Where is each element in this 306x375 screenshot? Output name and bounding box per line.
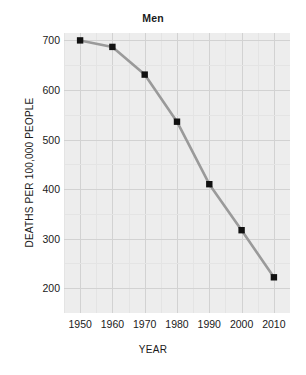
data-series-layer [64,33,290,313]
data-point-1980 [174,119,180,125]
x-axis-title: YEAR [0,344,306,355]
y-axis-title: DEATHS PER 100,000 PEOPLE [24,58,35,288]
y-tick-label-700: 700 [24,34,60,46]
x-tick-label-2010: 2010 [254,318,294,330]
data-point-2000 [238,227,244,233]
series-line-men [80,40,274,277]
data-point-1990 [206,181,212,187]
data-point-1970 [142,71,148,77]
chart-title: Men [0,12,306,24]
data-point-1960 [109,44,115,50]
data-point-1950 [77,37,83,43]
chart-figure: Men 200300400500600700 19501960197019801… [0,0,306,375]
series-markers-men [77,37,277,280]
data-point-2010 [271,274,277,280]
plot-area [64,33,290,313]
